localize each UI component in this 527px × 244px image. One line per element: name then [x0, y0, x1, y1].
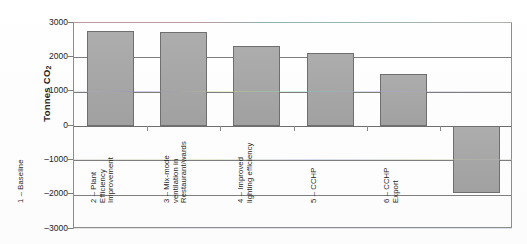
y-tick-mark	[68, 90, 74, 91]
bar-1	[87, 31, 134, 126]
gridline	[74, 57, 511, 58]
y-tick-label: 3000	[24, 18, 68, 27]
y-tick-mark	[68, 22, 74, 23]
bar-6	[453, 126, 500, 193]
y-tick-mark	[68, 125, 74, 126]
y-tick-label: 1000	[24, 86, 68, 95]
x-axis-category-label: 6 – CCHP Export	[383, 127, 400, 203]
y-axis-tick-labels: 3000200010000–1000–2000–3000	[18, 0, 68, 244]
y-tick-mark	[68, 193, 74, 194]
gridline	[74, 92, 511, 93]
plot-area	[73, 22, 512, 228]
bar-3	[233, 46, 280, 126]
gridline	[74, 160, 511, 161]
y-tick-label: 0	[24, 121, 68, 130]
x-axis-category-label: 4 – Improved lighting efficiency	[237, 127, 254, 203]
x-tick-mark	[367, 126, 368, 131]
y-tick-label: 2000	[24, 52, 68, 61]
x-axis-category-label: 1 – Baseline	[17, 127, 26, 203]
x-tick-mark	[440, 126, 441, 131]
y-tick-mark	[68, 56, 74, 57]
x-axis-category-label: 5 – CCHP	[310, 127, 319, 203]
y-tick-label: –3000	[24, 224, 68, 233]
y-tick-label: –2000	[24, 189, 68, 198]
bar-5	[380, 74, 427, 126]
gridline	[74, 195, 511, 196]
x-tick-mark	[147, 126, 148, 131]
bar-4	[307, 53, 354, 126]
x-axis-category-label: 2 – Plant Efficiency Improvement	[90, 127, 116, 203]
zero-line	[74, 126, 511, 127]
y-tick-mark	[68, 159, 74, 160]
chart-figure: Tonnes CO2 3000200010000–1000–2000–3000 …	[0, 0, 527, 244]
x-axis-category-label: 3 – Mix-mode ventilation in Restaurant/w…	[163, 127, 189, 203]
y-tick-label: –1000	[24, 155, 68, 164]
x-tick-mark	[220, 126, 221, 131]
scan-colour-fringe	[73, 228, 512, 229]
bar-2	[160, 32, 207, 126]
x-tick-mark	[294, 126, 295, 131]
y-tick-mark	[68, 228, 74, 229]
